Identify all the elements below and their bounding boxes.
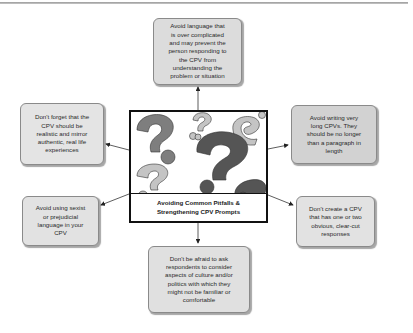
node-right-bottom-text: Don't create a CPV that has one or two o… xyxy=(309,205,362,238)
node-left-bottom-text: Avoid using sexist or prejudicial langua… xyxy=(36,204,85,237)
node-left-bottom: Avoid using sexist or prejudicial langua… xyxy=(22,196,99,246)
node-right-top-text: Avoid writing very long CPVs. They shoul… xyxy=(307,114,361,155)
central-topic-title: Avoiding Common Pitfalls & Strengthening… xyxy=(131,193,266,221)
node-right-top: Avoid writing very long CPVs. They shoul… xyxy=(291,105,377,164)
node-top-text: Avoid language that is over complicated … xyxy=(168,22,226,80)
node-bottom-text: Don't be afraid to ask respondents to co… xyxy=(165,255,233,305)
node-top: Avoid language that is over complicated … xyxy=(153,18,242,85)
node-right-bottom: Don't create a CPV that has one or two o… xyxy=(296,196,375,247)
question-marks-icon xyxy=(131,112,266,196)
node-left-top-text: Don't forget that the CPV should be real… xyxy=(35,113,89,154)
node-left-top: Don't forget that the CPV should be real… xyxy=(20,103,104,165)
central-topic: Avoiding Common Pitfalls & Strengthening… xyxy=(129,110,268,223)
node-bottom: Don't be afraid to ask respondents to co… xyxy=(148,246,250,313)
